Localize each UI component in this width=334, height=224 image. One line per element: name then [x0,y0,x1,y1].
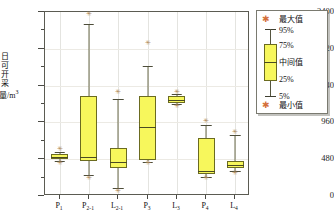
y-axis-tick-label: 480 [298,154,334,162]
x-axis-tick-label: P1 [55,201,62,210]
max-star-icon: ✳ [203,118,209,124]
x-axis-tick-label: P3 [143,201,150,210]
p95-cap [142,66,153,67]
y-axis-label-text: 日可开采量/m [0,52,15,100]
x-axis-tick-label: L2-1 [111,201,123,210]
max-star-icon: ✳ [145,40,151,46]
legend-p5-cap-icon [265,96,276,97]
min-star-icon: ✳ [145,160,151,166]
legend-label-q3: 75% [279,41,294,50]
boxplot-p4: ✳✳ [198,12,215,196]
x-axis-tick-label: L3 [172,201,180,210]
x-axis-tick [88,195,89,199]
legend-label-p5: 5% [279,92,290,101]
x-axis-tick [176,195,177,199]
max-star-icon: ✳ [115,89,121,95]
x-tick-subscript: 2-1 [87,205,94,211]
upper-whisker [206,125,207,138]
y-axis-label-exponent: 3 [15,89,18,95]
y-axis-tick-label: 0 [298,191,334,199]
p95-cap [113,99,124,100]
plot-area: ✳✳✳✳✳✳✳✳✳✳✳✳✳✳ [44,11,249,195]
min-star-icon: ✳ [174,103,180,109]
median-line [139,127,156,128]
min-star-icon: ✳ [115,188,121,194]
legend-upper-whisker-icon [270,29,271,44]
legend-label-q1: 25% [279,75,294,84]
x-axis-tick [59,195,60,199]
max-star-icon: ✳ [57,146,63,152]
legend-min-star-icon: ✱ [262,101,270,110]
x-tick-subscript: 4 [206,205,209,211]
legend-label-min: 最小值 [279,101,303,110]
y-axis-tick-label: 960 [298,117,334,125]
legend-lower-whisker-icon [270,81,271,96]
median-line [110,162,127,163]
x-axis-tick [117,195,118,199]
min-star-icon: ✳ [232,170,238,176]
x-tick-subscript: 3 [148,205,151,211]
legend-label-max: 最大值 [279,15,303,24]
median-line [80,157,97,158]
boxplot-p1: ✳✳ [51,12,68,196]
legend-label-median: 中间值 [279,58,303,67]
y-axis-major-tick [38,195,44,196]
upper-whisker [235,135,236,161]
boxplot-chart: 日可开采量/m3 0480960144019202400 ✳✳✳✳✳✳✳✳✳✳✳… [0,0,334,224]
boxplot-l2-1: ✳✳ [110,12,127,196]
upper-whisker [147,66,148,96]
x-tick-subscript: 3 [177,205,180,211]
interquartile-box [110,148,127,168]
max-star-icon: ✳ [86,11,92,17]
x-tick-subscript: 4 [235,205,238,211]
legend-max-star-icon: ✱ [262,15,270,24]
x-axis-tick [234,195,235,199]
max-star-icon: ✳ [232,129,238,135]
x-axis-tick-label: P2-1 [82,201,94,210]
y-axis-label: 日可开采量/m3 [0,52,11,100]
interquartile-box [198,138,215,174]
x-axis-tick [205,195,206,199]
x-axis-tick-label: P4 [201,201,208,210]
x-tick-subscript: 1 [60,205,63,211]
upper-whisker [118,99,119,149]
median-line [168,100,185,101]
legend: ✱ 最大值 95% 75% 中间值 25% 5% ✱ 最小值 [256,10,328,114]
legend-label-p95: 95% [279,26,294,35]
median-line [227,165,244,166]
min-star-icon: ✳ [86,175,92,181]
boxplot-p2-1: ✳✳ [80,12,97,196]
boxplot-l4: ✳✳ [227,12,244,196]
upper-whisker [88,24,89,97]
boxplot-p3: ✳✳ [139,12,156,196]
min-star-icon: ✳ [57,160,63,166]
median-line [198,171,215,172]
p95-cap [84,24,95,25]
x-axis-tick [147,195,148,199]
max-star-icon: ✳ [174,89,180,95]
min-star-icon: ✳ [203,175,209,181]
interquartile-box [80,96,97,160]
x-tick-subscript: 2-1 [116,205,123,211]
x-axis-tick-label: L4 [230,201,238,210]
lower-whisker [118,168,119,187]
legend-median-line-icon [264,62,277,63]
boxplot-l3: ✳✳ [168,12,185,196]
